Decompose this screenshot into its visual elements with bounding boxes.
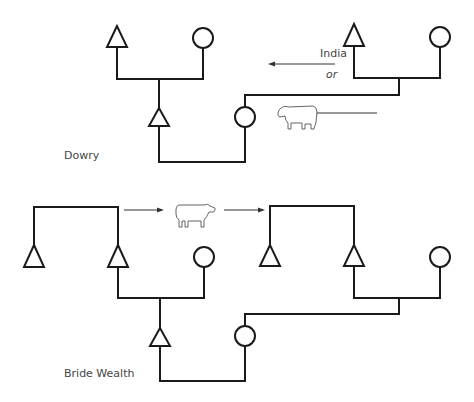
marriage-line: [117, 47, 203, 79]
marriage-line: [118, 267, 204, 298]
arrowhead-icon: [268, 62, 275, 67]
male-triangle-icon: [150, 328, 170, 346]
sibling-line: [34, 207, 118, 245]
male-triangle-icon: [24, 245, 44, 267]
female-circle-icon: [430, 27, 450, 47]
cow-icon: [278, 106, 317, 129]
arrowhead-icon: [157, 208, 164, 213]
bride-wealth-label: Bride Wealth: [64, 367, 134, 380]
male-triangle-icon: [344, 245, 364, 266]
female-circle-icon: [235, 107, 255, 127]
kinship-diagram: [0, 0, 474, 402]
descent-line: [245, 298, 399, 326]
marriage-line: [160, 346, 245, 381]
dowry-section: [107, 24, 450, 162]
sibling-line: [270, 206, 354, 245]
descent-line: [245, 78, 399, 107]
female-circle-icon: [235, 326, 255, 346]
marriage-line: [354, 46, 440, 78]
annotation-or: or: [326, 68, 337, 81]
arrowhead-icon: [258, 208, 265, 213]
female-circle-icon: [193, 28, 213, 48]
male-triangle-icon: [260, 245, 280, 266]
male-triangle-icon: [149, 108, 169, 126]
marriage-line: [354, 266, 440, 298]
dowry-label: Dowry: [64, 149, 99, 162]
bride-wealth-section: [24, 204, 450, 381]
cow-icon: [176, 204, 215, 227]
male-triangle-icon: [344, 24, 364, 46]
female-circle-icon: [194, 247, 214, 267]
female-circle-icon: [430, 247, 450, 267]
annotation-india: India: [320, 47, 347, 60]
male-triangle-icon: [108, 245, 128, 267]
marriage-line: [159, 126, 245, 162]
male-triangle-icon: [107, 26, 127, 47]
